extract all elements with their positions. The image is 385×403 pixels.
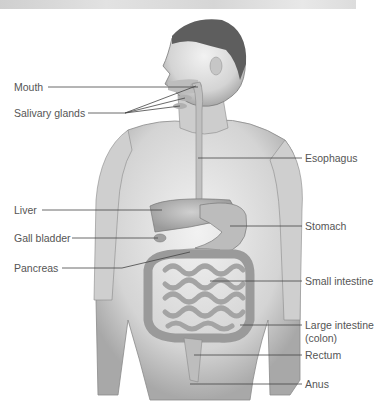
label-small-intestine: Small intestine	[305, 275, 373, 287]
label-mouth: Mouth	[14, 81, 43, 93]
label-anus: Anus	[305, 378, 329, 390]
label-esophagus: Esophagus	[305, 152, 358, 164]
label-large-intestine-sub: (colon)	[305, 332, 337, 344]
label-pancreas: Pancreas	[14, 262, 58, 274]
label-gall-bladder: Gall bladder	[14, 232, 71, 244]
ear	[210, 57, 222, 75]
label-rectum: Rectum	[305, 349, 341, 361]
label-stomach: Stomach	[305, 220, 346, 232]
label-large-intestine: Large intestine	[305, 319, 374, 331]
label-liver: Liver	[14, 204, 37, 216]
label-salivary-glands: Salivary glands	[14, 107, 85, 119]
